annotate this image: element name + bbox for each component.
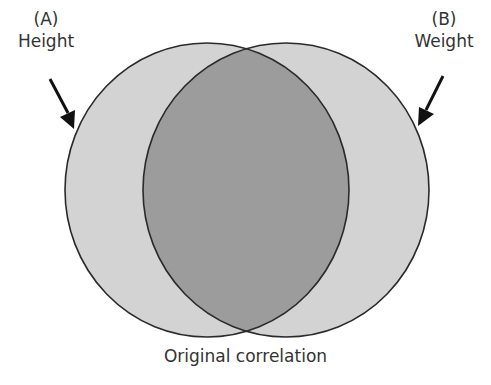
label-b-name: Weight xyxy=(404,30,484,52)
label-a-tag: (A) xyxy=(14,8,78,30)
label-b-tag: (B) xyxy=(404,8,484,30)
label-b: (B) Weight xyxy=(404,8,484,52)
arrow-b-icon xyxy=(418,76,443,126)
venn-diagram xyxy=(0,0,491,385)
label-a-name: Height xyxy=(14,30,78,52)
arrow-a-icon xyxy=(50,79,75,129)
label-a: (A) Height xyxy=(14,8,78,52)
diagram-caption: Original correlation xyxy=(0,346,491,366)
